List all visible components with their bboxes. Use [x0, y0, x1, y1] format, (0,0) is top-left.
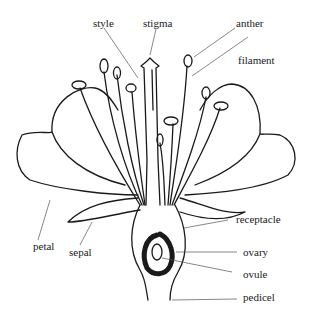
- ovule-shape: [152, 244, 162, 260]
- left-lower-petal-edge: [52, 132, 125, 185]
- label-style: style: [93, 18, 114, 29]
- ovary-wall: [144, 234, 172, 274]
- stamens: [72, 55, 228, 205]
- label-anther: anther: [236, 18, 263, 29]
- right-outer-petal: [185, 84, 295, 195]
- receptacle-shape: [132, 205, 186, 300]
- label-pedicel: pedicel: [243, 292, 275, 303]
- style-shape: [141, 58, 160, 205]
- label-petal: petal: [33, 241, 54, 252]
- label-filament: filament: [238, 55, 275, 66]
- label-ovary: ovary: [243, 247, 268, 258]
- label-sepal: sepal: [69, 247, 92, 258]
- flower-drawing: [0, 0, 315, 318]
- label-stigma: stigma: [143, 18, 172, 29]
- right-lower-petal-edge: [195, 134, 260, 185]
- label-ovule: ovule: [243, 269, 267, 280]
- label-receptacle: receptacle: [236, 214, 281, 225]
- left-sepal: [68, 198, 140, 222]
- left-outer-petal: [17, 88, 138, 195]
